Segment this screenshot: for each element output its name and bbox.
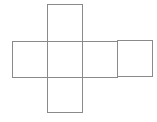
face-back [117, 40, 153, 77]
cube-net-diagram [0, 0, 157, 122]
face-right [82, 41, 118, 78]
face-top [47, 4, 83, 42]
face-bottom [47, 77, 83, 113]
face-front [47, 41, 83, 78]
face-left [12, 41, 48, 78]
